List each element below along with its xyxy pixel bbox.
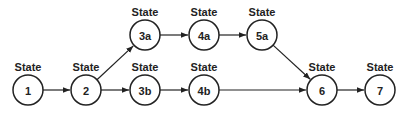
state-label: State [73, 61, 100, 73]
state-node-4a: State4a [189, 6, 219, 50]
state-label: State [191, 61, 218, 73]
state-node-2: State2 [71, 61, 101, 105]
state-node-7: State7 [365, 61, 395, 105]
state-number: 6 [319, 85, 325, 97]
nodes: State1State2State3aState3bState4aState4b… [13, 6, 395, 105]
state-node-5a: State5a [247, 6, 277, 50]
state-node-4b: State4b [189, 61, 219, 105]
state-label: State [15, 61, 42, 73]
state-diagram: State1State2State3aState3bState4aState4b… [0, 0, 404, 114]
state-label: State [249, 6, 276, 18]
state-label: State [132, 6, 159, 18]
state-number: 2 [83, 85, 89, 97]
state-node-1: State1 [13, 61, 43, 105]
state-node-3b: State3b [130, 61, 160, 105]
state-node-3a: State3a [130, 6, 160, 50]
state-label: State [309, 61, 336, 73]
state-number: 3b [139, 85, 152, 97]
edge-2-to-3a [97, 46, 133, 80]
edge-5a-to-6 [273, 45, 310, 79]
state-number: 5a [256, 30, 269, 42]
state-node-6: State6 [307, 61, 337, 105]
state-label: State [191, 6, 218, 18]
state-number: 7 [377, 85, 383, 97]
state-number: 3a [139, 30, 152, 42]
state-number: 4a [198, 30, 211, 42]
state-label: State [367, 61, 394, 73]
state-label: State [132, 61, 159, 73]
state-number: 4b [198, 85, 211, 97]
state-number: 1 [25, 85, 31, 97]
